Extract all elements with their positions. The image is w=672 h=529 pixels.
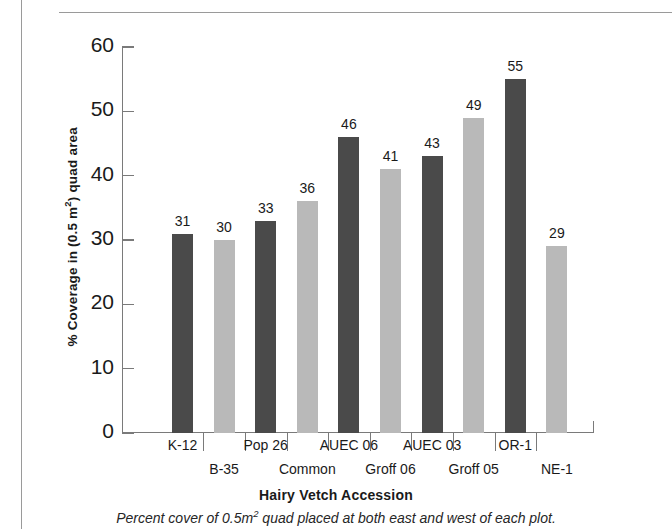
bar xyxy=(338,137,359,433)
x-axis-end-tick xyxy=(593,421,594,433)
x-axis-category-label: B-35 xyxy=(209,461,239,477)
y-axis-tick-label: 60 xyxy=(60,33,114,57)
x-axis-tick xyxy=(203,433,204,451)
bar xyxy=(380,169,401,433)
x-axis-category-label: Groff 05 xyxy=(449,461,499,477)
y-axis-tick xyxy=(123,368,134,369)
bar-value-label: 55 xyxy=(508,58,524,74)
x-axis-category-label: Common xyxy=(279,461,336,477)
x-axis-tick xyxy=(536,433,537,451)
x-axis-category-label: Pop 26 xyxy=(244,437,288,453)
y-axis-title-superscript: 2 xyxy=(62,201,73,206)
x-axis-tick xyxy=(495,433,496,451)
bar xyxy=(463,118,484,433)
y-axis-tick xyxy=(123,175,134,176)
y-axis-tick-label: 0 xyxy=(60,419,114,443)
bar-value-label: 36 xyxy=(300,180,316,196)
bar-value-label: 46 xyxy=(341,116,357,132)
y-axis-tick xyxy=(123,239,134,240)
figure-page: % Coverage in (0.5 m2) quad area 0102030… xyxy=(0,0,672,529)
caption-suffix: quad placed at both east and west of eac… xyxy=(258,510,555,526)
bar xyxy=(255,221,276,433)
x-axis-category-label: AUEC 06 xyxy=(320,437,378,453)
bar-value-label: 33 xyxy=(258,200,274,216)
x-axis-title: Hairy Vetch Accession xyxy=(0,487,672,503)
bar-value-label: 30 xyxy=(216,219,232,235)
y-axis-tick-label: 50 xyxy=(60,97,114,121)
x-axis-category-label: NE-1 xyxy=(541,461,573,477)
y-axis-tick xyxy=(123,111,134,112)
bar xyxy=(505,79,526,433)
bar-value-label: 31 xyxy=(175,213,191,229)
bar xyxy=(546,246,567,433)
x-axis-category-label: OR-1 xyxy=(499,437,532,453)
figure-caption: Percent cover of 0.5m2 quad placed at bo… xyxy=(0,508,672,526)
caption-prefix: Percent cover of 0.5m xyxy=(116,510,253,526)
x-axis-category-label: K-12 xyxy=(168,437,198,453)
y-axis-tick-label: 10 xyxy=(60,355,114,379)
bar-value-label: 43 xyxy=(424,135,440,151)
bar-value-label: 29 xyxy=(549,225,565,241)
y-axis-tick xyxy=(123,304,134,305)
y-axis-tick xyxy=(123,46,134,47)
bar xyxy=(297,201,318,433)
x-axis-category-label: Groff 06 xyxy=(365,461,415,477)
y-axis-tick-label: 30 xyxy=(60,226,114,250)
x-axis-category-label: AUEC 03 xyxy=(403,437,461,453)
bar-chart: % Coverage in (0.5 m2) quad area 0102030… xyxy=(0,0,672,529)
y-axis-tick-label: 40 xyxy=(60,162,114,186)
bar xyxy=(422,156,443,433)
bar-value-label: 49 xyxy=(466,97,482,113)
bar-value-label: 41 xyxy=(383,148,399,164)
bar xyxy=(214,240,235,433)
y-axis-tick-label: 20 xyxy=(60,290,114,314)
bar xyxy=(172,234,193,433)
